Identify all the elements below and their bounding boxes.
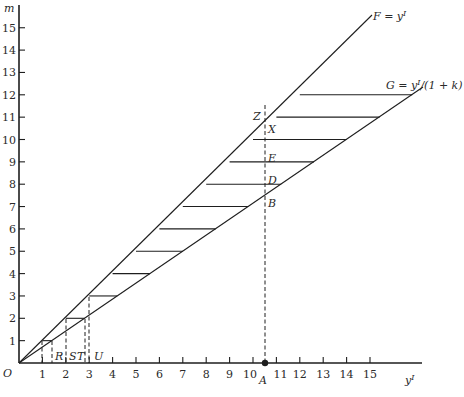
diagram-canvas: 123456789101112131415 123456789101112131…: [0, 0, 464, 397]
x-tick-label: 9: [226, 368, 233, 381]
y-tick-label: 3: [9, 290, 16, 303]
y-tick-label: 12: [2, 89, 16, 102]
y-tick-label: 10: [2, 134, 16, 147]
label-U: U: [94, 350, 104, 363]
x-tick-label: 3: [86, 368, 93, 381]
x-tick-label: 12: [293, 368, 307, 381]
x-tick-label: 14: [340, 368, 354, 381]
y-tick-label: 11: [2, 111, 16, 124]
x-tick-label: 6: [156, 368, 163, 381]
label-Z: Z: [252, 110, 261, 123]
y-tick-label: 1: [9, 335, 16, 348]
x-axis-ticks: 123456789101112131415: [39, 357, 377, 381]
y-tick-label: 4: [9, 268, 16, 281]
point-A: [262, 360, 268, 366]
y-tick-label: 2: [9, 312, 16, 325]
line-G: [19, 87, 423, 363]
x-tick-label: 15: [363, 368, 377, 381]
label-S: S: [69, 350, 77, 363]
line-F-label: F = yI: [372, 9, 407, 23]
y-tick-label: 13: [2, 66, 16, 79]
x-tick-label: 11: [273, 368, 287, 381]
x-tick-label: 8: [203, 368, 210, 381]
origin-label: O: [3, 367, 12, 380]
x-tick-label: 1: [39, 368, 46, 381]
label-B: B: [267, 197, 276, 210]
line-F: [19, 15, 372, 363]
y-tick-label: 7: [9, 201, 16, 214]
x-tick-label: 5: [133, 368, 140, 381]
y-tick-label: 5: [9, 245, 16, 258]
x-tick-label: 4: [109, 368, 116, 381]
x-axis-label: yI: [404, 373, 415, 387]
x-tick-label: 2: [62, 368, 69, 381]
y-tick-label: 6: [9, 223, 16, 236]
x-tick-label: 10: [243, 368, 257, 381]
y-tick-label: 8: [9, 178, 16, 191]
y-axis-label: m: [4, 2, 14, 15]
x-tick-label: 7: [179, 368, 186, 381]
label-E: E: [267, 152, 276, 165]
label-R: R: [54, 350, 63, 363]
label-D: D: [267, 174, 277, 187]
y-tick-label: 14: [2, 44, 16, 57]
label-X: X: [267, 123, 277, 136]
label-A: A: [258, 374, 267, 387]
y-tick-label: 9: [9, 156, 16, 169]
x-tick-label: 13: [316, 368, 330, 381]
line-G-label: G = yI/(1 + k): [386, 78, 463, 92]
y-axis-ticks: 123456789101112131415: [2, 22, 25, 348]
y-tick-label: 15: [2, 22, 16, 35]
